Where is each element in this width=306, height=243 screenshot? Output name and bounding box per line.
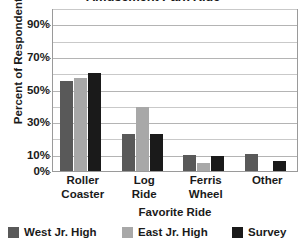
bar bbox=[211, 156, 224, 171]
x-label-line-2: Coaster bbox=[52, 188, 114, 202]
x-axis-tick-label: LogRide bbox=[114, 174, 176, 201]
plot-area bbox=[52, 9, 298, 172]
chart-legend: West Jr. HighEast Jr. HighSurvey bbox=[4, 226, 304, 242]
y-axis-tick-label: 10% bbox=[2, 150, 50, 162]
bar bbox=[183, 155, 196, 171]
legend-swatch-icon bbox=[232, 227, 243, 238]
bar-group bbox=[176, 10, 238, 171]
bar bbox=[74, 78, 87, 171]
bar bbox=[273, 161, 286, 171]
x-label-line-1: Ferris bbox=[190, 174, 222, 186]
legend-label: West Jr. High bbox=[24, 226, 97, 238]
x-axis-tick-labels: RollerCoasterLogRideFerrisWheelOther bbox=[52, 174, 298, 208]
legend-item[interactable]: West Jr. High bbox=[8, 226, 97, 238]
legend-label: Survey bbox=[248, 226, 286, 238]
y-axis-tick-label: 70% bbox=[2, 52, 50, 64]
legend-item[interactable]: East Jr. High bbox=[122, 226, 208, 238]
legend-swatch-icon bbox=[122, 227, 133, 238]
legend-swatch-icon bbox=[8, 227, 19, 238]
bar bbox=[245, 154, 258, 171]
y-axis-tick-mark bbox=[47, 25, 51, 26]
x-label-line-2: Ride bbox=[114, 188, 176, 202]
bar-group bbox=[53, 10, 115, 171]
bar bbox=[60, 81, 73, 171]
y-axis-tick-label: 90% bbox=[2, 19, 50, 31]
bar bbox=[122, 134, 135, 171]
bar bbox=[136, 107, 149, 171]
y-axis-tick-mark bbox=[47, 123, 51, 124]
legend-item[interactable]: Survey bbox=[232, 226, 286, 238]
bar-group bbox=[238, 10, 300, 171]
x-axis-title: Favorite Ride bbox=[52, 206, 298, 218]
bar bbox=[150, 134, 163, 171]
x-axis-tick-label: RollerCoaster bbox=[52, 174, 114, 201]
bar bbox=[88, 73, 101, 171]
y-axis-tick-labels: 0%10%30%50%70%90% bbox=[0, 0, 50, 243]
x-label-line-1: Roller bbox=[66, 174, 99, 186]
y-axis-tick-label: 50% bbox=[2, 85, 50, 97]
y-axis-tick-mark bbox=[47, 172, 51, 173]
y-axis-tick-mark bbox=[47, 91, 51, 92]
bar bbox=[197, 163, 210, 171]
y-axis-tick-label: 0% bbox=[2, 166, 50, 178]
y-axis-tick-label: 30% bbox=[2, 117, 50, 129]
x-label-line-2: Wheel bbox=[175, 188, 237, 202]
x-label-line-1: Log bbox=[134, 174, 155, 186]
bar-group bbox=[115, 10, 177, 171]
y-axis-tick-mark bbox=[47, 58, 51, 59]
legend-label: East Jr. High bbox=[138, 226, 208, 238]
x-axis-tick-label: FerrisWheel bbox=[175, 174, 237, 201]
x-label-line-1: Other bbox=[252, 174, 283, 186]
bar-chart: Amusement Park Ride Percent of Responden… bbox=[0, 0, 306, 243]
x-axis-tick-label: Other bbox=[237, 174, 299, 188]
y-axis-tick-mark bbox=[47, 156, 51, 157]
